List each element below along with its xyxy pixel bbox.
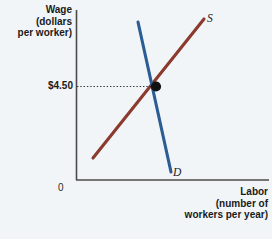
equilibrium-point-marker	[151, 81, 161, 91]
origin-label: 0	[58, 182, 64, 194]
supply-curve-label: S	[207, 12, 213, 24]
supply-curve	[93, 19, 204, 158]
demand-curve-label: D	[173, 166, 181, 178]
y-axis-title: Wage (dollars per worker)	[8, 4, 72, 39]
price-tick-label: $4.50	[22, 80, 73, 92]
x-axis-title: Labor (number of workers per year)	[168, 186, 268, 221]
graph-figure: Wage (dollars per worker) Labor (number …	[0, 0, 272, 239]
